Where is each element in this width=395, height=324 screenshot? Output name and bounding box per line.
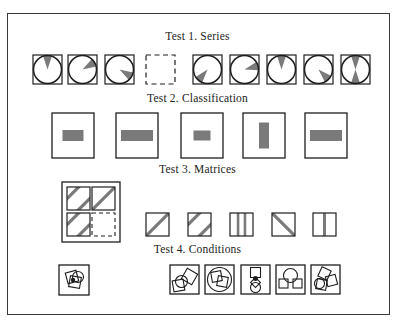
series-item (230, 55, 259, 84)
dot-mark (71, 278, 75, 282)
condition-option (170, 265, 199, 294)
classification-group (52, 113, 347, 158)
classification-item (52, 113, 94, 158)
classification-item (116, 113, 158, 158)
series-item (267, 55, 296, 84)
series-item (105, 55, 134, 84)
series-item (304, 55, 333, 84)
matrix-option (313, 213, 336, 236)
matrix-option (145, 212, 170, 237)
condition-option (311, 265, 340, 294)
classification-item (243, 113, 285, 158)
dot-mark (253, 276, 258, 281)
classification-item (181, 113, 223, 158)
series-group (33, 55, 370, 84)
matrix-panel (62, 182, 120, 242)
condition-box (205, 265, 234, 294)
matrices-group (62, 182, 336, 242)
series-item (193, 55, 222, 84)
series-item (68, 55, 97, 84)
series-item (146, 55, 175, 84)
matrix-option (271, 212, 296, 237)
condition-option (241, 265, 270, 294)
conditions-group (59, 265, 340, 295)
bar-mark (121, 130, 153, 141)
matrix-cell (91, 186, 116, 211)
bar-mark (194, 131, 211, 141)
matrix-option (187, 212, 212, 237)
figure-canvas (0, 0, 395, 324)
condition-option (205, 265, 234, 294)
series-item (33, 55, 62, 84)
series-item (341, 55, 370, 84)
matrix-cell (66, 212, 91, 237)
bar-mark (63, 130, 84, 141)
bar-mark (310, 130, 342, 141)
matrix-cell (66, 186, 91, 211)
condition-example (59, 265, 89, 295)
classification-item (305, 113, 347, 158)
condition-option (276, 265, 305, 294)
bar-mark (259, 123, 269, 149)
matrix-option (230, 213, 253, 236)
blank-answer-box (146, 55, 175, 84)
